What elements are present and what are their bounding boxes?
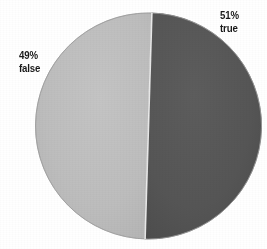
pie-label-true-name: true <box>220 22 239 35</box>
pie-label-false: 49% false <box>19 49 40 74</box>
pie-chart-graphic <box>0 0 267 249</box>
pie-chart-figure: 51% true 49% false <box>0 0 267 249</box>
pie-slice-false <box>35 13 151 239</box>
pie-slice-true <box>145 13 261 239</box>
pie-label-true-percent: 51% <box>220 9 239 22</box>
pie-label-false-name: false <box>19 62 40 75</box>
pie-label-false-percent: 49% <box>19 49 40 62</box>
pie-label-true: 51% true <box>220 9 239 34</box>
